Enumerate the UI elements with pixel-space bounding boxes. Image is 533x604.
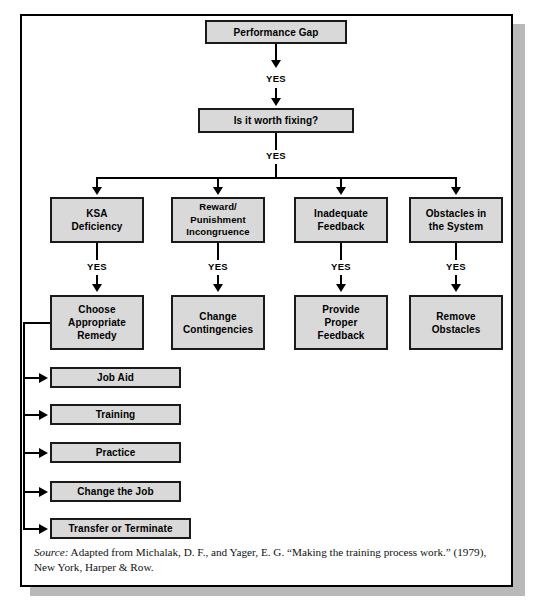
connector-worth-to-yes2 [275, 133, 277, 150]
edge-label-yes-obstacles: YES [436, 261, 476, 272]
arrowhead-trunk-to-change-the-job [39, 487, 48, 497]
source-text: Adapted from Michalak, D. F., and Yager,… [34, 546, 486, 573]
connector-yes2-to-bus [275, 164, 277, 178]
node-obstacles-in-the-system[interactable]: Obstacles in the System [409, 197, 503, 243]
node-choose-appropriate-remedy[interactable]: Choose Appropriate Remedy [50, 295, 144, 350]
edge-label-yes-reward: YES [198, 261, 238, 272]
arrowhead-yes-reward-to-change [213, 284, 223, 292]
arrowhead-yes-feedback-to-provide [336, 284, 346, 292]
node-change-contingencies[interactable]: Change Contingencies [171, 295, 265, 350]
connector-remedy-to-trunk [23, 322, 52, 324]
node-reward-punishment-incongruence[interactable]: Reward/ Punishment Incongruence [171, 197, 265, 243]
node-remove-obstacles[interactable]: Remove Obstacles [409, 295, 503, 350]
edge-label-yes-ksa: YES [77, 261, 117, 272]
node-inadequate-feedback[interactable]: Inadequate Feedback [294, 197, 388, 243]
source-label: Source: [34, 546, 68, 558]
node-ksa-deficiency[interactable]: KSA Deficiency [50, 197, 144, 243]
node-remedy-job-aid[interactable]: Job Aid [50, 367, 181, 388]
node-remedy-practice[interactable]: Practice [50, 442, 181, 463]
source-note: Source: Adapted from Michalak, D. F., an… [34, 545, 489, 575]
arrowhead-gap-to-yes1 [271, 60, 281, 68]
arrowhead-yes-ksa-to-remedy [92, 284, 102, 292]
node-is-it-worth-fixing[interactable]: Is it worth fixing? [198, 108, 354, 133]
connector-reward-to-yes [217, 243, 219, 260]
arrowhead-trunk-to-practice [39, 448, 48, 458]
connector-remedy-trunk-vertical [23, 322, 25, 528]
arrowhead-bus-to-feedback [336, 187, 346, 195]
arrowhead-trunk-to-transfer-or-terminate [39, 524, 48, 534]
arrowhead-bus-to-ksa [92, 187, 102, 195]
edge-label-yes-2: YES [256, 150, 296, 161]
connector-distribution-bus [96, 177, 456, 179]
arrowhead-trunk-to-training [39, 410, 48, 420]
arrowhead-trunk-to-job-aid [39, 373, 48, 383]
connector-obstacles-to-yes [455, 243, 457, 260]
arrowhead-yes1-to-worth [271, 98, 281, 106]
figure-root: Performance Gap YES Is it worth fixing? … [0, 0, 533, 604]
node-performance-gap[interactable]: Performance Gap [205, 20, 347, 44]
edge-label-yes-1: YES [256, 73, 296, 84]
arrowhead-bus-to-obstacles [451, 187, 461, 195]
arrowhead-bus-to-reward [213, 187, 223, 195]
edge-label-yes-feedback: YES [321, 261, 361, 272]
arrowhead-yes-obstacles-to-remove [451, 284, 461, 292]
node-provide-proper-feedback[interactable]: Provide Proper Feedback [294, 295, 388, 350]
node-remedy-training[interactable]: Training [50, 404, 181, 425]
node-remedy-transfer-or-terminate[interactable]: Transfer or Terminate [50, 518, 191, 539]
connector-feedback-to-yes [340, 243, 342, 260]
node-remedy-change-the-job[interactable]: Change the Job [50, 481, 181, 502]
connector-ksa-to-yes [96, 243, 98, 260]
